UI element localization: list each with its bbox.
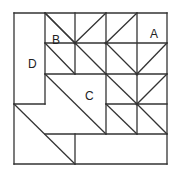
quilt-line <box>75 13 106 43</box>
region-label-d: D <box>28 58 37 70</box>
vertex-dot <box>135 102 138 105</box>
vertex-dot <box>135 72 138 75</box>
quilt-line <box>137 43 167 74</box>
region-label-c: C <box>85 90 94 102</box>
quilt-line <box>45 43 75 74</box>
vertex-dot <box>73 41 76 44</box>
quilt-line <box>137 104 167 134</box>
quilt-line <box>106 104 137 134</box>
region-label-a: A <box>150 28 158 40</box>
quilt-line <box>75 43 106 74</box>
quilt-line <box>106 43 137 74</box>
quilt-diagram <box>0 0 181 172</box>
vertex-dot <box>104 41 107 44</box>
region-label-b: B <box>52 34 60 46</box>
quilt-line <box>106 13 137 43</box>
quilt-line <box>137 74 167 104</box>
quilt-line <box>45 74 106 134</box>
quilt-line <box>106 74 137 104</box>
